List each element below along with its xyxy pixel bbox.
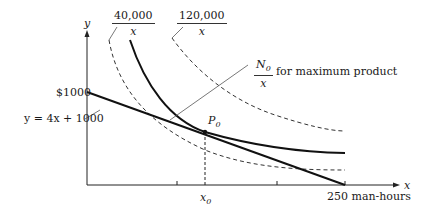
x-axis-arrow-icon xyxy=(393,183,400,188)
y-axis-arrow-icon xyxy=(85,30,90,37)
leader-n0 xyxy=(170,65,248,120)
budget-line xyxy=(87,92,345,185)
point-p0 xyxy=(203,130,207,134)
y-intercept-label: $1000 xyxy=(56,87,91,98)
fraction-120000: 120,000 x xyxy=(177,10,227,37)
curve-n0-over-x xyxy=(130,40,345,153)
p0-label: P0 xyxy=(208,115,221,129)
x0-label: x0 xyxy=(200,192,211,206)
fraction-40000: 40,000 x xyxy=(112,10,155,37)
fraction-n0: N0 x xyxy=(254,59,273,89)
x-end-label: 250 man-hours xyxy=(327,191,411,202)
maximum-product-note: for maximum product xyxy=(276,66,397,77)
y-axis-label: y xyxy=(84,18,90,29)
line-equation-label: y = 4x + 1000 xyxy=(24,113,104,124)
